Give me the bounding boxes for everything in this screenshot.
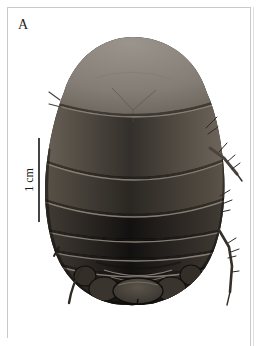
figure-panel: A 1 cm <box>0 0 260 346</box>
plate-notch <box>137 299 138 305</box>
scale-bar-label: 1 cm <box>22 168 36 192</box>
panel-label: A <box>18 17 29 32</box>
specimen-figure: A 1 cm <box>0 0 260 346</box>
